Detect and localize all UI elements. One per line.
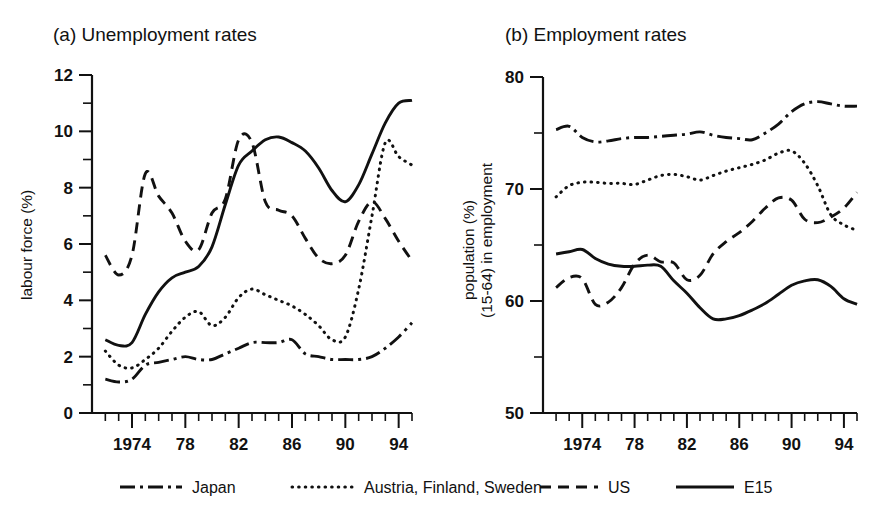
series-line-e15	[556, 249, 857, 320]
two-panel-line-chart: (a) Unemployment rates labour force (%) …	[0, 0, 873, 524]
panel-a-ytick-8: 8	[64, 179, 73, 198]
panel-b-axes	[530, 77, 857, 428]
panel-b-series-group	[556, 102, 857, 320]
panel-a-ytick-10: 10	[54, 122, 73, 141]
series-line-austria-finland-sweden	[556, 150, 857, 230]
panel-a-xtick-78: 78	[176, 435, 195, 454]
panel-employment-rates: (b) Employment rates population (%) (15-…	[460, 24, 857, 454]
panel-b-xtick-1974: 1974	[563, 435, 601, 454]
panel-a-series-group	[105, 100, 412, 382]
panel-b-xtick-86: 86	[730, 435, 749, 454]
series-line-e15	[105, 100, 412, 346]
panel-a-xtick-94: 94	[389, 435, 408, 454]
panel-a-xtick-1974: 1974	[113, 435, 151, 454]
panel-a-xtick-82: 82	[229, 435, 248, 454]
series-line-japan	[556, 102, 857, 142]
chart-legend: JapanAustria, Finland, SwedenUSE15	[120, 479, 773, 496]
panel-a-ytick-2: 2	[64, 348, 73, 367]
panel-b-xtick-82: 82	[677, 435, 696, 454]
panel-b-y-axis-title-line2: (15-64) in employment	[478, 162, 495, 318]
panel-b-ytick-60: 60	[505, 292, 524, 311]
panel-a-ytick-0: 0	[64, 404, 73, 423]
series-line-austria-finland-sweden	[105, 140, 412, 368]
panel-b-xtick-78: 78	[625, 435, 644, 454]
panel-a-xtick-90: 90	[336, 435, 355, 454]
panel-a-ytick-12: 12	[54, 66, 73, 85]
panel-b-y-axis-title-line1: population (%)	[460, 200, 477, 300]
panel-b-ytick-80: 80	[505, 68, 524, 87]
panel-a-xtick-86: 86	[283, 435, 302, 454]
legend-item-e15: E15	[676, 479, 773, 496]
legend-label-text: Japan	[192, 479, 236, 496]
panel-a-ytick-6: 6	[64, 235, 73, 254]
legend-label-text: Austria, Finland, Sweden	[364, 479, 542, 496]
legend-label-text: E15	[744, 479, 773, 496]
figure-container: (a) Unemployment rates labour force (%) …	[0, 0, 873, 524]
panel-b-title: (b) Employment rates	[505, 24, 687, 45]
panel-b-ytick-50: 50	[505, 404, 524, 423]
panel-a-ytick-4: 4	[64, 291, 74, 310]
panel-a-title: (a) Unemployment rates	[53, 24, 257, 45]
panel-b-tick-labels: 5060708019747882869094	[505, 68, 854, 454]
legend-item-us: US	[540, 479, 630, 496]
panel-b-xtick-90: 90	[782, 435, 801, 454]
panel-b-ytick-70: 70	[505, 180, 524, 199]
series-line-us	[556, 192, 857, 306]
legend-label-text: US	[608, 479, 630, 496]
legend-item-japan: Japan	[120, 479, 236, 496]
panel-b-xtick-94: 94	[834, 435, 853, 454]
legend-item-austria-finland-sweden: Austria, Finland, Sweden	[292, 479, 542, 496]
panel-a-y-axis-title: labour force (%)	[18, 190, 35, 300]
panel-a-axes	[79, 75, 412, 428]
series-line-japan	[105, 323, 412, 382]
panel-unemployment-rates: (a) Unemployment rates labour force (%) …	[18, 24, 412, 454]
